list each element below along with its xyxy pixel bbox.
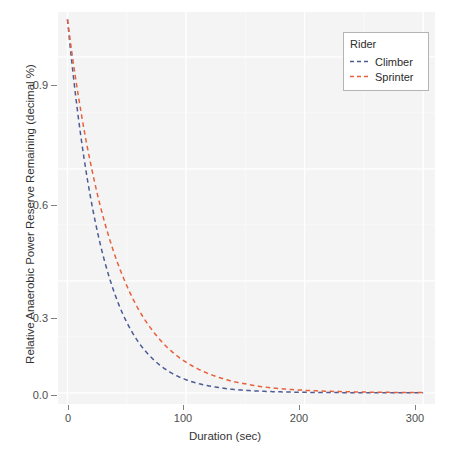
y-tick-mark bbox=[51, 85, 57, 86]
x-tick-mark bbox=[68, 405, 69, 410]
y-axis-title: Relative Anaerobic Power Reserve Remaini… bbox=[24, 4, 36, 424]
x-tick-label: 300 bbox=[395, 412, 435, 424]
legend-key-climber-icon bbox=[350, 56, 370, 67]
x-tick-mark bbox=[415, 405, 416, 410]
y-tick-mark bbox=[51, 205, 57, 206]
x-tick-label: 0 bbox=[48, 412, 88, 424]
y-tick-mark bbox=[51, 395, 57, 396]
x-axis-title: Duration (sec) bbox=[0, 430, 450, 442]
x-tick-label: 200 bbox=[279, 412, 319, 424]
legend-label-sprinter: Sprinter bbox=[375, 71, 414, 83]
legend-title: Rider bbox=[350, 38, 422, 50]
legend-item-climber[interactable]: Climber bbox=[350, 54, 422, 69]
legend: Rider Climber Sprinter bbox=[343, 32, 429, 91]
legend-key-sprinter-icon bbox=[350, 71, 370, 82]
x-tick-label: 100 bbox=[163, 412, 203, 424]
legend-label-climber: Climber bbox=[375, 56, 413, 68]
x-tick-mark bbox=[299, 405, 300, 410]
x-tick-mark bbox=[183, 405, 184, 410]
y-tick-mark bbox=[51, 318, 57, 319]
legend-item-sprinter[interactable]: Sprinter bbox=[350, 69, 422, 84]
chart-figure: 0.9 0.6 0.3 0.0 0 100 200 300 Duration (… bbox=[0, 0, 450, 460]
